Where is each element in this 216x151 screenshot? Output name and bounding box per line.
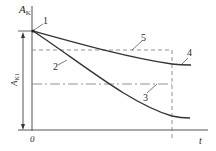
leader-2 (58, 60, 67, 65)
curve-label-3: 3 (143, 92, 148, 103)
diagram-canvas: AK t 0 AK1 1 2 3 4 5 (0, 0, 216, 151)
curve-label-5: 5 (141, 32, 146, 43)
interval-label: AK1 (9, 73, 20, 87)
curve-label-4: 4 (187, 47, 192, 58)
curve-2 (33, 31, 190, 118)
interval-arrow-up-head (21, 32, 25, 38)
interval-arrow-down-head (21, 124, 25, 130)
y-axis-label: AK (18, 3, 31, 17)
x-axis-label: t (199, 135, 202, 146)
origin-label: 0 (30, 134, 35, 144)
curve-label-2: 2 (53, 61, 58, 72)
curve-label-1: 1 (43, 15, 48, 26)
leader-4 (181, 58, 188, 65)
leader-3 (147, 84, 157, 93)
leader-1 (34, 24, 43, 30)
